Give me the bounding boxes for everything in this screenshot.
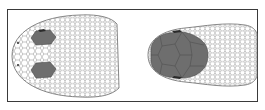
right-head-plate-cluster: [151, 32, 208, 78]
left-upper-supraocular-scale: [31, 30, 56, 45]
left-lower-nostril: [17, 64, 19, 66]
left-upper-nostril: [17, 42, 19, 44]
left-snake-head: [10, 12, 122, 102]
figure-illustration: [0, 0, 265, 110]
right-snake-head: [146, 20, 260, 90]
